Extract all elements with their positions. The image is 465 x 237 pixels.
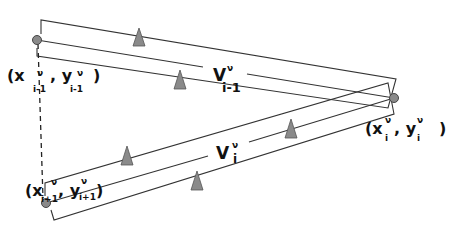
label-sub: i-1 [33,84,46,94]
label-sup: ν [37,68,43,78]
label-text: V [216,143,230,163]
node-circle-i-minus-1 [33,36,42,45]
label-sup: ν [77,68,83,78]
label-text: , y [50,66,73,85]
label-edge-top: V ν i-1 [213,63,241,95]
label-sup: ν [232,140,238,150]
label-sub: i-1 [70,84,83,94]
label-text: ) [439,119,446,138]
label-text: (x [365,119,383,138]
label-sup: ν [51,177,57,187]
label-node-i: (x ν i , y ν i ) [365,115,446,143]
label-sub: i [417,133,420,143]
edge-band-top [37,20,396,108]
triangle-icon [121,146,133,165]
label-text: (x [7,66,25,85]
label-sup: ν [385,115,391,125]
label-sup: ν [81,176,87,186]
label-text: , y [394,119,417,138]
label-sub: i-1 [222,80,241,95]
label-sub: i [233,152,237,166]
triangle-icon [174,70,186,89]
band-top-outline [37,20,396,108]
label-text: ) [96,181,103,200]
label-sub: i+1 [41,194,58,204]
label-node-i-minus-1: (x ν i-1 , y ν i-1 ) [7,66,100,94]
label-sub: i+1 [79,192,96,202]
label-edge-bottom: V ν i [216,140,238,166]
band-top-centerline-right [247,74,394,98]
triangle-markers [121,28,297,190]
label-sup: ν [417,115,423,125]
diagram-canvas: (x ν i-1 , y ν i-1 ) V ν i-1 V ν i (x ν … [0,0,465,237]
label-text: , y [58,181,81,200]
label-text: ) [93,66,100,85]
band-top-centerline-left [37,40,203,67]
label-sup: ν [227,63,233,73]
node-circle-i [390,94,399,103]
label-sub: i [385,133,388,143]
